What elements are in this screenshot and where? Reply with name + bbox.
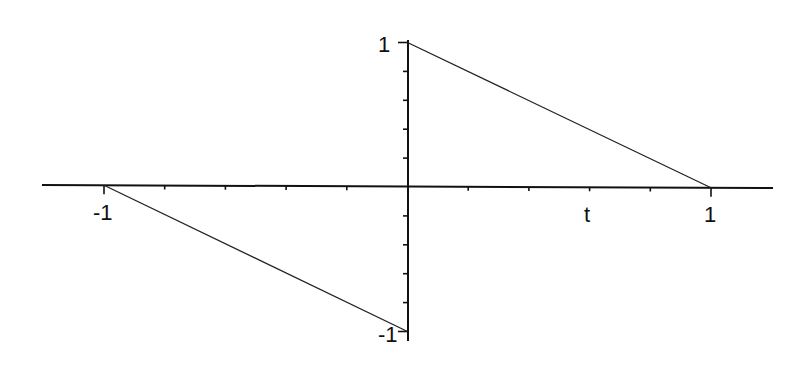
x-tick-label-neg1: -1: [93, 200, 113, 225]
line-segment-negative: [104, 185, 408, 331]
y-axis: [398, 40, 408, 341]
y-tick-label-pos1: 1: [378, 32, 390, 57]
x-tick-label-pos1: 1: [704, 202, 716, 227]
plot-area: -1 1 t 1 -1: [0, 0, 811, 365]
line-segment-positive: [408, 43, 712, 188]
x-axis-label: t: [584, 202, 590, 227]
y-tick-label-neg1: -1: [378, 322, 398, 347]
